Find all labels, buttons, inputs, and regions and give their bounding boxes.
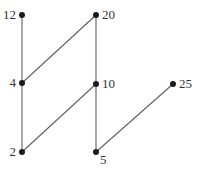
node-label-10: 10	[102, 76, 115, 91]
node-label-2: 2	[10, 144, 17, 159]
node-12	[19, 12, 25, 18]
node-5	[93, 149, 99, 155]
node-label-20: 20	[102, 7, 115, 22]
edge-2-10	[22, 84, 96, 152]
node-label-5: 5	[100, 152, 107, 167]
hasse-diagram: 12204102525	[0, 0, 198, 170]
node-4	[19, 80, 25, 86]
edge-4-20	[22, 15, 96, 83]
graph-svg: 12204102525	[0, 0, 198, 170]
node-label-4: 4	[10, 75, 17, 90]
node-10	[93, 81, 99, 87]
edge-5-25	[96, 84, 173, 152]
node-2	[19, 149, 25, 155]
node-label-12: 12	[3, 7, 16, 22]
node-25	[170, 81, 176, 87]
node-20	[93, 12, 99, 18]
node-label-25: 25	[179, 76, 192, 91]
